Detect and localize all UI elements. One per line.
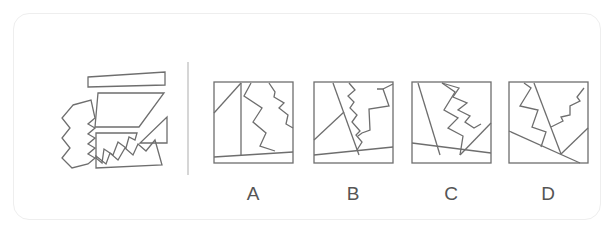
option-d-line xyxy=(561,128,588,154)
option-d-figure[interactable] xyxy=(509,82,588,163)
option-label-d[interactable]: D xyxy=(528,183,568,205)
piece-zigzag-lower xyxy=(96,140,162,168)
option-a-line xyxy=(214,83,241,113)
option-b-line xyxy=(314,112,344,140)
option-c-zigzag xyxy=(442,83,463,155)
option-b-zigzag xyxy=(348,83,362,150)
option-b-figure[interactable] xyxy=(314,82,393,163)
option-b-line xyxy=(383,84,393,89)
piece-zigzag-left-strip xyxy=(62,100,95,168)
option-label-a[interactable]: A xyxy=(233,183,273,205)
option-a-line xyxy=(214,152,293,157)
option-c-figure[interactable] xyxy=(412,82,491,163)
option-label-c[interactable]: C xyxy=(431,183,471,205)
option-c-line xyxy=(412,143,491,153)
puzzle-svg xyxy=(0,0,614,233)
piece-top-sliver xyxy=(88,72,165,87)
question-pieces xyxy=(62,72,167,168)
piece-trapezoid xyxy=(95,93,164,127)
option-b-zigzag xyxy=(358,89,389,136)
option-b-line xyxy=(314,147,393,155)
option-label-b[interactable]: B xyxy=(333,183,373,205)
option-c-zigzag xyxy=(442,83,481,128)
option-d-zigzag xyxy=(551,88,584,127)
option-a-zigzag xyxy=(269,83,293,128)
option-a-figure[interactable] xyxy=(214,82,293,163)
option-a-zigzag xyxy=(244,83,275,151)
option-d-line xyxy=(534,83,561,154)
puzzle-canvas xyxy=(0,0,614,233)
